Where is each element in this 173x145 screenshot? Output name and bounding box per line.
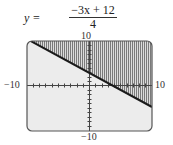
graph-screen [0, 0, 173, 145]
